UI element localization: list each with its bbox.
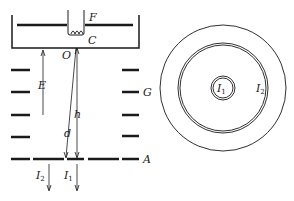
label-current-i2: I2 <box>35 169 45 183</box>
distance-d-line <box>66 48 76 157</box>
label-cathode: C <box>88 34 97 47</box>
label-inner-current: I1 <box>216 82 226 96</box>
label-anode: A <box>142 153 151 166</box>
label-distance-d: d <box>64 127 71 140</box>
label-field: E <box>37 79 46 92</box>
apparatus-diagram: F C O E G A d h I2 I1 I1 I2 <box>0 0 294 201</box>
label-grid: G <box>143 86 152 99</box>
label-current-i1: I1 <box>63 169 73 183</box>
label-origin: O <box>62 49 71 62</box>
cathode-housing <box>12 15 139 48</box>
filament-coil <box>71 31 83 34</box>
label-outer-current: I2 <box>255 82 265 96</box>
label-filament: F <box>88 11 97 24</box>
label-height-h: h <box>74 108 81 121</box>
